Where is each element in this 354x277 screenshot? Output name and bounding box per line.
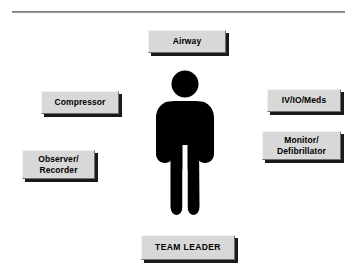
role-box-airway[interactable]: Airway bbox=[148, 30, 226, 53]
role-label-monitor-line2: Defibrillator bbox=[266, 146, 337, 156]
team-roles-diagram: Airway Compressor Observer/ Recorder IV/… bbox=[0, 0, 354, 277]
role-label-monitor-line1: Monitor/ bbox=[284, 135, 318, 145]
role-box-monitor-defibrillator[interactable]: Monitor/ Defibrillator bbox=[262, 131, 341, 160]
person-figure-icon bbox=[154, 70, 216, 218]
role-box-observer-recorder[interactable]: Observer/ Recorder bbox=[22, 150, 95, 179]
role-label-iv-io-meds: IV/IO/Meds bbox=[268, 95, 340, 105]
role-label-observer-line1: Observer/ bbox=[38, 154, 79, 164]
role-label-team-leader: TEAM LEADER bbox=[142, 242, 234, 252]
role-box-iv-io-meds[interactable]: IV/IO/Meds bbox=[267, 89, 341, 112]
role-label-compressor: Compressor bbox=[42, 97, 118, 107]
role-label-airway: Airway bbox=[149, 36, 225, 46]
role-label-observer-recorder: Observer/ Recorder bbox=[23, 154, 94, 174]
role-label-monitor-defibrillator: Monitor/ Defibrillator bbox=[263, 135, 340, 155]
role-box-compressor[interactable]: Compressor bbox=[41, 91, 119, 114]
top-horizontal-rule bbox=[12, 11, 345, 13]
role-box-team-leader[interactable]: TEAM LEADER bbox=[141, 235, 235, 260]
role-label-observer-line2: Recorder bbox=[26, 165, 91, 175]
